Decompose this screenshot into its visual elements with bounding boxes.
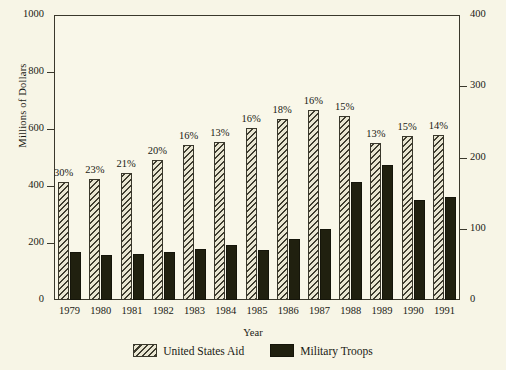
y-axis-left-tick bbox=[47, 129, 54, 130]
chart-series-layer: 02004006008001000010020030040030%197923%… bbox=[0, 0, 506, 370]
bar-value-label: 15% bbox=[392, 121, 422, 132]
bar-value-label: 13% bbox=[205, 127, 235, 138]
x-axis-tick-label: 1985 bbox=[240, 305, 274, 316]
x-axis-tick-label: 1987 bbox=[302, 305, 336, 316]
bar-military-troops bbox=[414, 200, 425, 300]
bar-united-states-aid bbox=[308, 110, 319, 300]
y-axis-left-tick-label: 400 bbox=[8, 179, 44, 190]
chart-legend: United States Aid Military Troops bbox=[0, 344, 506, 357]
legend-label-troops: Military Troops bbox=[300, 345, 373, 357]
legend-label-aid: United States Aid bbox=[163, 345, 244, 357]
x-axis-tick-label: 1984 bbox=[209, 305, 243, 316]
bar-military-troops bbox=[351, 182, 362, 300]
hatched-swatch-icon bbox=[133, 344, 157, 357]
bar-value-label: 21% bbox=[111, 158, 141, 169]
bar-chart: Millions of Dollars Jordan's Military Tr… bbox=[0, 0, 506, 370]
solid-dark-swatch-icon bbox=[270, 344, 294, 357]
legend-item-united-states-aid: United States Aid bbox=[133, 344, 244, 357]
x-axis-tick-label: 1988 bbox=[334, 305, 368, 316]
bar-military-troops bbox=[289, 239, 300, 300]
y-axis-right-tick-label: 300 bbox=[470, 79, 504, 90]
x-axis-tick-label: 1979 bbox=[53, 305, 87, 316]
y-axis-right-tick bbox=[460, 229, 467, 230]
y-axis-right-tick-label: 400 bbox=[470, 8, 504, 19]
y-axis-right-tick bbox=[460, 86, 467, 87]
y-axis-left-tick-label: 200 bbox=[8, 236, 44, 247]
bar-united-states-aid bbox=[121, 173, 132, 300]
bar-value-label: 16% bbox=[236, 113, 266, 124]
y-axis-left-tick bbox=[47, 243, 54, 244]
bar-united-states-aid bbox=[89, 179, 100, 300]
legend-item-military-troops: Military Troops bbox=[270, 344, 373, 357]
x-axis-tick-label: 1986 bbox=[271, 305, 305, 316]
bar-united-states-aid bbox=[370, 143, 381, 300]
y-axis-right-tick-label: 0 bbox=[470, 293, 504, 304]
y-axis-right-tick-label: 100 bbox=[470, 222, 504, 233]
bar-value-label: 20% bbox=[142, 145, 172, 156]
bar-military-troops bbox=[258, 250, 269, 300]
bar-military-troops bbox=[382, 165, 393, 300]
x-axis-tick-label: 1981 bbox=[115, 305, 149, 316]
bar-value-label: 23% bbox=[80, 164, 110, 175]
y-axis-left-tick-label: 1000 bbox=[8, 8, 44, 19]
bar-united-states-aid bbox=[339, 116, 350, 300]
bar-military-troops bbox=[164, 252, 175, 300]
bar-value-label: 16% bbox=[298, 95, 328, 106]
x-axis-tick-label: 1989 bbox=[365, 305, 399, 316]
bar-united-states-aid bbox=[152, 160, 163, 300]
bar-united-states-aid bbox=[183, 145, 194, 300]
bar-united-states-aid bbox=[246, 128, 257, 300]
y-axis-right-tick-label: 200 bbox=[470, 151, 504, 162]
bar-military-troops bbox=[101, 255, 112, 300]
bar-united-states-aid bbox=[433, 135, 444, 300]
x-axis-tick-label: 1991 bbox=[427, 305, 461, 316]
x-axis-tick-label: 1980 bbox=[84, 305, 118, 316]
y-axis-left-tick bbox=[47, 72, 54, 73]
bar-united-states-aid bbox=[277, 119, 288, 300]
bar-military-troops bbox=[320, 229, 331, 300]
x-axis-tick-label: 1982 bbox=[146, 305, 180, 316]
y-axis-right-tick bbox=[460, 158, 467, 159]
bar-military-troops bbox=[195, 249, 206, 300]
y-axis-left-tick-label: 0 bbox=[8, 293, 44, 304]
bar-military-troops bbox=[226, 245, 237, 300]
bar-value-label: 30% bbox=[49, 167, 79, 178]
bar-value-label: 16% bbox=[174, 130, 204, 141]
bar-military-troops bbox=[445, 197, 456, 300]
y-axis-left-tick bbox=[47, 186, 54, 187]
bar-value-label: 15% bbox=[330, 101, 360, 112]
bar-value-label: 13% bbox=[361, 128, 391, 139]
x-axis-tick-label: 1990 bbox=[396, 305, 430, 316]
bar-united-states-aid bbox=[214, 142, 225, 300]
bar-value-label: 18% bbox=[267, 104, 297, 115]
bar-military-troops bbox=[70, 252, 81, 300]
bar-military-troops bbox=[133, 254, 144, 300]
bar-united-states-aid bbox=[402, 136, 413, 300]
x-axis-tick-label: 1983 bbox=[178, 305, 212, 316]
y-axis-left-tick-label: 800 bbox=[8, 65, 44, 76]
y-axis-left-tick-label: 600 bbox=[8, 122, 44, 133]
bar-united-states-aid bbox=[58, 182, 69, 300]
bar-value-label: 14% bbox=[423, 120, 453, 131]
